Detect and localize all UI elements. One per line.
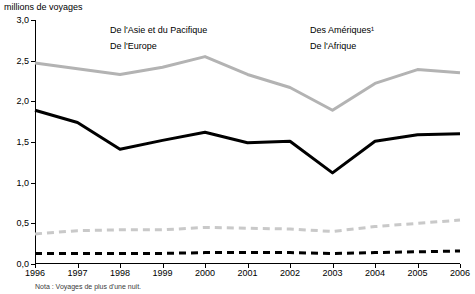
x-tick-label: 1999	[146, 268, 180, 278]
x-tick-label: 2004	[358, 268, 392, 278]
x-tick-mark	[460, 264, 461, 268]
x-tick-mark	[333, 264, 334, 268]
x-tick-label: 2005	[401, 268, 435, 278]
x-tick-mark	[418, 264, 419, 268]
series-layer	[35, 20, 460, 264]
x-tick-mark	[205, 264, 206, 268]
x-tick-mark	[290, 264, 291, 268]
y-tick-label: 2,5	[0, 56, 29, 66]
legend: De l'Asie et du Pacifique Des Amériques¹…	[70, 22, 455, 54]
y-tick-label: 3,0	[0, 15, 29, 25]
x-tick-label: 1997	[61, 268, 95, 278]
x-tick-label: 1998	[103, 268, 137, 278]
y-tick-label: 1,0	[0, 178, 29, 188]
series-line	[35, 220, 460, 234]
x-tick-label: 2000	[188, 268, 222, 278]
y-tick-label: 1,5	[0, 137, 29, 147]
x-tick-mark	[248, 264, 249, 268]
legend-row-1: De l'Asie et du Pacifique Des Amériques¹	[70, 22, 455, 38]
y-axis-title: millions de voyages	[4, 2, 83, 12]
x-tick-label: 2002	[273, 268, 307, 278]
legend-label-europe: De l'Europe	[110, 41, 157, 51]
x-tick-mark	[78, 264, 79, 268]
legend-label-afrique: De l'Afrique	[310, 41, 356, 51]
legend-item-ameriques: Des Amériques¹	[270, 25, 450, 35]
legend-item-europe: De l'Europe	[70, 41, 270, 51]
legend-item-asie-pacifique: De l'Asie et du Pacifique	[70, 25, 270, 35]
x-tick-mark	[163, 264, 164, 268]
x-tick-label: 2006	[443, 268, 475, 278]
y-tick-label: 2,0	[0, 96, 29, 106]
x-tick-label: 1996	[18, 268, 52, 278]
chart-footnote: Nota : Voyages de plus d'une nuit.	[35, 283, 141, 290]
series-line	[35, 57, 460, 111]
x-tick-mark	[375, 264, 376, 268]
legend-label-ameriques: Des Amériques¹	[310, 25, 374, 35]
series-line	[35, 251, 460, 253]
series-line	[35, 110, 460, 173]
plot-area: 0,00,51,01,52,02,53,0 199619971998199920…	[35, 20, 460, 264]
legend-row-2: De l'Europe De l'Afrique	[70, 38, 455, 54]
x-tick-mark	[35, 264, 36, 268]
x-tick-mark	[120, 264, 121, 268]
y-tick-label: 0,5	[0, 218, 29, 228]
legend-item-afrique: De l'Afrique	[270, 41, 450, 51]
x-tick-label: 2003	[316, 268, 350, 278]
x-tick-label: 2001	[231, 268, 265, 278]
legend-label-asie-pacifique: De l'Asie et du Pacifique	[110, 25, 207, 35]
